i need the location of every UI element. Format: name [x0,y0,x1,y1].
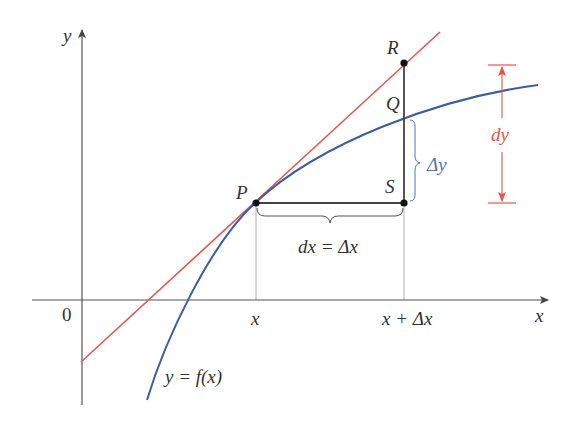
tick-label-x-plus-dx: x + Δx [381,308,433,329]
origin-label: 0 [62,304,72,325]
dx-brace [257,208,403,223]
point-label-P: P [235,182,248,203]
point-P [252,199,259,206]
curve-label: y = f(x) [163,366,222,388]
dx-label: dx = Δx [298,236,358,257]
y-axis-label: y [61,25,72,46]
delta-y-brace [410,120,420,201]
point-label-Q: Q [386,93,400,114]
point-S [400,199,407,206]
x-axis-label: x [534,305,544,326]
point-label-R: R [386,37,399,58]
delta-y-label: Δy [426,154,447,175]
point-label-S: S [385,176,395,197]
tick-label-x: x [250,308,260,329]
point-R [400,59,407,66]
differential-diagram: y x 0 P Q R S x x + Δx dx = Δx Δy dy y =… [0,0,572,423]
dy-label: dy [491,124,510,145]
